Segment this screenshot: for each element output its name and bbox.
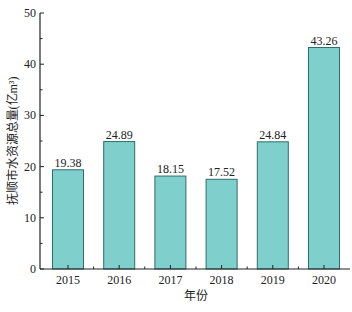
bar-2017 — [155, 176, 186, 269]
y-tick-label: 50 — [24, 6, 36, 20]
y-tick-label: 40 — [24, 57, 36, 71]
y-tick-label: 10 — [24, 211, 36, 225]
bar-value-label: 24.89 — [106, 128, 133, 142]
x-tick-label: 2017 — [158, 273, 182, 287]
x-tick-label: 2015 — [56, 273, 80, 287]
x-tick-label: 2019 — [261, 273, 285, 287]
x-tick-label: 2018 — [210, 273, 234, 287]
x-tick-label: 2016 — [107, 273, 131, 287]
bar-value-label: 19.38 — [55, 156, 82, 170]
y-tick-label: 0 — [30, 262, 36, 276]
y-axis-label: 抚顺市水资源总量(亿m³) — [5, 77, 20, 206]
bar-2015 — [53, 170, 84, 269]
x-tick-label: 2020 — [312, 273, 336, 287]
bar-value-label: 24.84 — [259, 128, 286, 142]
bar-chart: 19.3824.8918.1517.5224.8443.26 010203040… — [0, 0, 352, 312]
y-tick-label: 30 — [24, 108, 36, 122]
bars: 19.3824.8918.1517.5224.8443.26 — [53, 34, 340, 269]
bar-value-label: 17.52 — [208, 165, 235, 179]
bar-value-label: 18.15 — [157, 162, 184, 176]
bar-value-label: 43.26 — [311, 34, 338, 48]
bar-2016 — [104, 142, 135, 269]
bar-2018 — [206, 179, 237, 269]
y-tick-label: 20 — [24, 160, 36, 174]
x-axis-label: 年份 — [184, 289, 208, 303]
bar-2020 — [309, 48, 340, 269]
bar-2019 — [257, 142, 288, 269]
